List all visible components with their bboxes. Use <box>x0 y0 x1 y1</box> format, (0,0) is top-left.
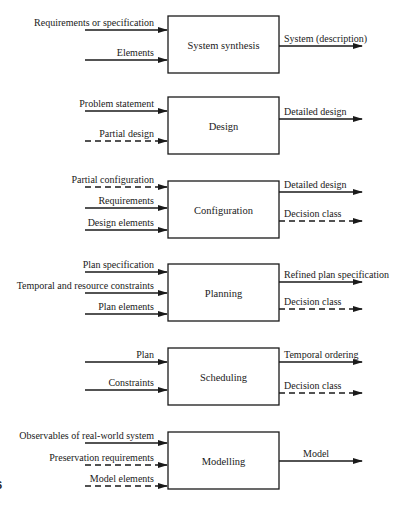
input-label: Observables of real-world system <box>19 430 154 441</box>
figure-number-fragment: 6 <box>0 479 2 491</box>
input-label: Plan elements <box>98 301 154 312</box>
output-label: Refined plan specification <box>284 269 389 280</box>
process-label: Design <box>209 121 239 132</box>
output-label: Detailed design <box>284 106 346 117</box>
block-configuration: ConfigurationPartial configurationRequir… <box>72 174 362 238</box>
output-label: Detailed design <box>284 179 346 190</box>
input-label: Partial design <box>99 128 154 139</box>
task-types-diagram: System synthesisRequirements or specific… <box>0 0 402 507</box>
block-modelling: ModellingObservables of real-world syste… <box>19 430 362 489</box>
input-label: Constraints <box>108 377 154 388</box>
input-label: Requirements or specification <box>34 17 154 28</box>
input-label: Design elements <box>88 217 154 228</box>
block-design: DesignProblem statementPartial designDet… <box>79 97 362 154</box>
output-label: Decision class <box>284 208 342 219</box>
process-label: Modelling <box>202 456 246 467</box>
input-label: Plan specification <box>83 259 154 270</box>
input-label: Model elements <box>90 473 154 484</box>
input-label: Plan <box>136 349 154 360</box>
input-label: Preservation requirements <box>49 452 154 463</box>
input-label: Requirements <box>98 195 154 206</box>
output-label: Decision class <box>284 296 342 307</box>
output-label: Decision class <box>284 380 342 391</box>
block-planning: PlanningPlan specificationTemporal and r… <box>17 259 389 321</box>
output-label: Temporal ordering <box>284 349 359 360</box>
input-label: Problem statement <box>79 98 154 109</box>
process-label: Configuration <box>194 205 254 216</box>
process-label: System synthesis <box>187 40 259 51</box>
process-label: Scheduling <box>200 372 248 383</box>
input-label: Partial configuration <box>72 174 154 185</box>
block-system-synthesis: System synthesisRequirements or specific… <box>34 16 367 73</box>
process-label: Planning <box>205 288 243 299</box>
input-label: Temporal and resource constraints <box>17 280 154 291</box>
block-scheduling: SchedulingPlanConstraintsTemporal orderi… <box>85 348 362 405</box>
output-label: Model <box>303 448 329 459</box>
output-label: System (description) <box>284 33 367 45</box>
input-label: Elements <box>117 47 154 58</box>
